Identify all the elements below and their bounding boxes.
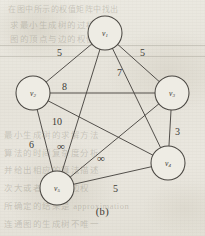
graph-edge-v3-v4 (169, 110, 171, 146)
edge-weight-v2-v3: 8 (62, 82, 67, 92)
graph-node-v3: v3 (155, 76, 189, 110)
edge-weight-v3-v5: ∞ (97, 153, 105, 164)
edge-weight-v2-v4: 10 (52, 117, 62, 127)
node-layer: v1v2v3v4v5 (16, 16, 189, 205)
graph-node-v2: v2 (16, 76, 50, 110)
graph-edge-v1-v4 (112, 48, 160, 147)
edge-weight-v4-v5: 5 (113, 184, 118, 194)
edge-weight-v1-v4: 7 (117, 68, 122, 78)
graph-edge-v1-v2 (46, 44, 92, 82)
edge-weight-v1-v5: ∞ (57, 141, 65, 152)
graph-node-v4: v4 (151, 146, 185, 180)
figure-caption: (b) (0, 206, 205, 217)
graph-edge-v3-v5 (70, 104, 159, 177)
figure-container: 在图中所示的权值矩阵中找出 求最小生成树的过程 图的顶点与边的权值 最小生成树的… (0, 0, 205, 236)
edge-weight-v1-v2: 5 (57, 48, 62, 58)
graph-edge-v1-v3 (118, 44, 160, 81)
graph-node-v1: v1 (88, 16, 122, 50)
edge-weight-v3-v4: 3 (175, 127, 180, 137)
edge-weight-v2-v5: 6 (29, 140, 34, 150)
graph-edge-v4-v5 (74, 167, 152, 185)
graph-edge-v2-v5 (37, 109, 53, 171)
graph-drawing: v1v2v3v4v5 (0, 0, 205, 236)
graph-node-v5: v5 (40, 171, 74, 205)
edge-weight-v1-v3: 5 (140, 48, 145, 58)
